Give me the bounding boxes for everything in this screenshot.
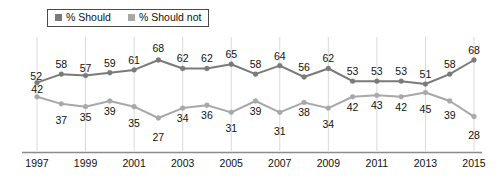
x-tick-label: 2001 (122, 158, 145, 169)
line-chart: % Should % Should not 525857596168626265… (0, 0, 499, 179)
x-tick-label: 2005 (220, 158, 243, 169)
x-tick-label: 2015 (462, 158, 485, 169)
x-axis-tick-labels: 1997199920012003200520072009201120132015 (0, 0, 499, 179)
x-tick-label: 2007 (268, 158, 291, 169)
x-tick-label: 2003 (171, 158, 194, 169)
x-tick-label: 1999 (74, 158, 97, 169)
x-tick-label: 1997 (25, 158, 48, 169)
x-tick-label: 2013 (414, 158, 437, 169)
x-tick-label: 2011 (366, 158, 389, 169)
x-tick-label: 2009 (317, 158, 340, 169)
